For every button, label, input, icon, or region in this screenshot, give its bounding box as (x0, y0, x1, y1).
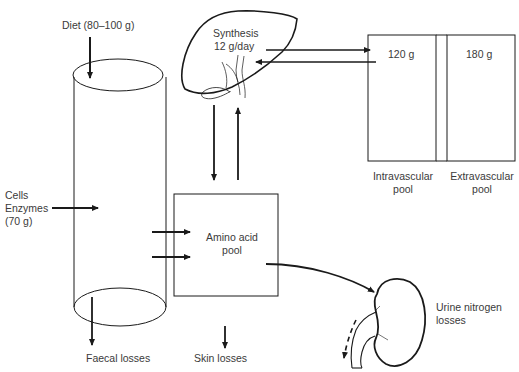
liver-icon (182, 11, 297, 99)
synthesis-label-line1: Synthesis (213, 27, 259, 40)
extravascular-label-line1: Extravascular (443, 170, 519, 183)
diet-label: Diet (80–100 g) (62, 19, 134, 32)
extravascular-pool-label: Extravascular pool (443, 170, 519, 196)
urine-nitrogen-label: Urine nitrogen losses (436, 301, 502, 327)
intravascular-label-line2: pool (364, 183, 442, 196)
cells-label-line2: Enzymes (5, 202, 48, 215)
urine-flow-dashed-arrow (344, 320, 356, 358)
cells-label-line3: (70 g) (5, 215, 48, 228)
urine-label-line1: Urine nitrogen (436, 301, 502, 314)
amino-acid-pool-label: Amino acid pool (196, 231, 268, 257)
extravascular-amount: 180 g (466, 48, 492, 61)
intravascular-amount: 120 g (388, 48, 414, 61)
gut-cylinder (73, 59, 166, 326)
cells-label-line1: Cells (5, 189, 48, 202)
extravascular-label-line2: pool (443, 183, 519, 196)
intravascular-label-line1: Intravascular (364, 170, 442, 183)
cells-enzymes-label: Cells Enzymes (70 g) (5, 189, 48, 228)
kidney-icon (351, 279, 425, 368)
pool-to-kidney-arrow (266, 264, 374, 292)
amino-label-line2: pool (196, 244, 268, 257)
synthesis-label-line2: 12 g/day (213, 40, 259, 53)
faecal-losses-label: Faecal losses (86, 352, 150, 365)
intravascular-pool-label: Intravascular pool (364, 170, 442, 196)
skin-losses-label: Skin losses (194, 352, 247, 365)
amino-label-line1: Amino acid (196, 231, 268, 244)
synthesis-label: Synthesis 12 g/day (213, 27, 259, 53)
urine-label-line2: losses (436, 314, 502, 327)
